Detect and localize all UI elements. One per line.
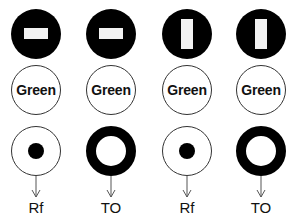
dot-circle-icon <box>162 126 212 176</box>
down-arrow-icon <box>30 176 42 198</box>
green-circle: Green <box>236 65 286 115</box>
column-4: Green TO <box>231 0 291 222</box>
center-dot <box>28 143 44 159</box>
green-label: Green <box>167 82 206 98</box>
center-dot <box>179 143 195 159</box>
horizontal-bar <box>24 28 48 39</box>
black-disk-vertical-bar-icon <box>162 9 212 59</box>
green-circle: Green <box>86 65 136 115</box>
output-label: Rf <box>157 199 217 216</box>
green-circle: Green <box>11 65 61 115</box>
dot-circle-icon <box>11 126 61 176</box>
black-disk-horizontal-bar-icon <box>11 9 61 59</box>
output-label: TO <box>231 199 291 216</box>
green-circle: Green <box>162 65 212 115</box>
horizontal-bar <box>99 28 123 39</box>
vertical-bar <box>255 19 267 49</box>
down-arrow-icon <box>255 176 267 198</box>
output-label: Rf <box>6 199 66 216</box>
output-label: TO <box>81 199 141 216</box>
green-label: Green <box>241 82 280 98</box>
thick-ring-icon <box>86 126 136 176</box>
column-3: Green Rf <box>157 0 217 222</box>
vertical-bar <box>181 19 193 49</box>
black-disk-vertical-bar-icon <box>236 9 286 59</box>
thick-ring-icon <box>236 126 286 176</box>
column-2: Green TO <box>81 0 141 222</box>
green-label: Green <box>16 82 55 98</box>
column-1: Green Rf <box>6 0 66 222</box>
down-arrow-icon <box>105 176 117 198</box>
black-disk-horizontal-bar-icon <box>86 9 136 59</box>
down-arrow-icon <box>181 176 193 198</box>
green-label: Green <box>91 82 130 98</box>
